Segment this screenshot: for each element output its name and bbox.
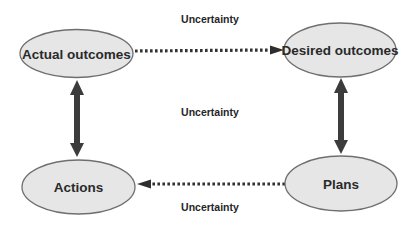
arrowhead-down-icon — [334, 140, 348, 154]
dotted-arrow-plans-to-actions — [137, 180, 285, 189]
node-label: Actual outcomes — [22, 47, 131, 62]
node-label: Plans — [323, 177, 359, 192]
arrowhead-left-icon — [137, 180, 151, 189]
node-plans: Plans — [285, 156, 397, 211]
uncertainty-diagram: Uncertainty Uncertainty Uncertainty Actu… — [0, 0, 417, 230]
node-label: Actions — [54, 180, 104, 195]
node-label: Desired outcomes — [281, 43, 398, 58]
uncertainty-label-top: Uncertainty — [181, 13, 239, 25]
dotted-arrow-actual-to-desired — [135, 46, 284, 55]
double-arrow-desired-plans — [334, 78, 348, 154]
uncertainty-label-bottom: Uncertainty — [181, 201, 239, 213]
node-actual-outcomes: Actual outcomes — [20, 30, 133, 78]
arrowhead-up-icon — [70, 80, 84, 95]
double-arrow-actual-actions — [70, 80, 84, 157]
uncertainty-label-middle: Uncertainty — [181, 106, 239, 118]
node-desired-outcomes: Desired outcomes — [281, 23, 398, 77]
arrowhead-up-icon — [334, 78, 348, 93]
node-actions: Actions — [22, 160, 135, 214]
arrowhead-down-icon — [70, 143, 84, 157]
